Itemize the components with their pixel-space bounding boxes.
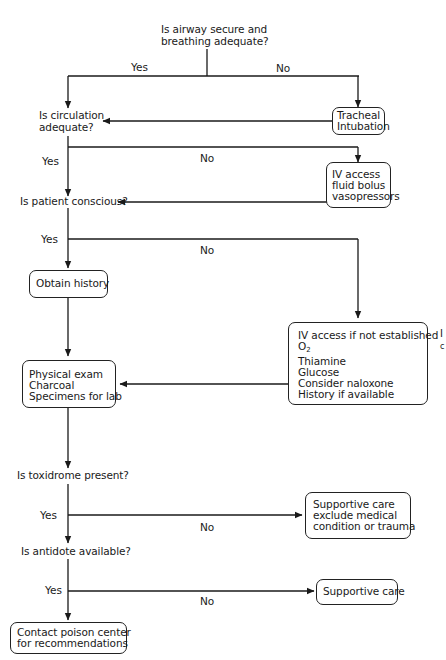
- flowchart-canvas: Is airway secure and breathing adequate?…: [0, 0, 446, 660]
- edge-label-antidote-no: No: [200, 596, 214, 607]
- decision-airway-breathing: Is airway secure and breathing adequate?: [161, 24, 269, 47]
- action-intubation-line2: Intubation: [337, 121, 384, 132]
- care-oxygen-symbol: O: [298, 340, 306, 352]
- care-line-oxygen: O2: [298, 341, 427, 356]
- action-iv-fluid-vasopressors: IV access fluid bolus vasopressors: [326, 162, 391, 208]
- edge-label-antidote-yes: Yes: [45, 585, 62, 596]
- edge-label-airway-yes: Yes: [131, 62, 148, 73]
- action-unconscious-care: IV access if not established O2 Thiamine…: [288, 322, 428, 405]
- supportive-line3: condition or trauma: [313, 521, 410, 532]
- care-oxygen-subscript: 2: [306, 346, 310, 354]
- action-tracheal-intubation: Tracheal Intubation: [332, 107, 385, 135]
- care-line-iv-access: IV access if not established: [298, 330, 427, 341]
- action-contact-poison-center: Contact poison center for recommendation…: [10, 622, 127, 654]
- edge-label-circulation-no: No: [200, 153, 214, 164]
- edge-label-circulation-yes: Yes: [42, 156, 59, 167]
- clipped-margin-text-1: I: [440, 328, 443, 339]
- decision-toxidrome-present: Is toxidrome present?: [17, 470, 129, 482]
- exam-line-specimens: Specimens for lab: [29, 391, 115, 402]
- edge-label-airway-no: No: [276, 63, 290, 74]
- poison-center-line2: for recommendations: [17, 638, 126, 649]
- decision-circulation: Is circulation adequate?: [39, 110, 104, 133]
- edge-label-conscious-yes: Yes: [41, 234, 58, 245]
- decision-circulation-line1: Is circulation: [39, 110, 104, 122]
- action-supportive-care-exclude: Supportive care exclude medical conditio…: [305, 492, 411, 539]
- decision-airway-line1: Is airway secure and: [161, 24, 269, 36]
- decision-airway-line2: breathing adequate?: [161, 36, 269, 48]
- edge-label-conscious-no: No: [200, 245, 214, 256]
- edge-label-toxidrome-no: No: [200, 522, 214, 533]
- decision-patient-conscious: Is patient conscious?: [20, 196, 128, 208]
- action-iv-line3: vasopressors: [332, 191, 390, 202]
- action-obtain-history: Obtain history: [29, 270, 108, 298]
- decision-circulation-line2: adequate?: [39, 122, 104, 134]
- decision-antidote-available: Is antidote available?: [21, 546, 131, 558]
- clipped-margin-text-2: c: [440, 341, 444, 352]
- action-supportive-care: Supportive care: [316, 579, 398, 605]
- action-physical-exam: Physical exam Charcoal Specimens for lab: [22, 360, 116, 408]
- edge-label-toxidrome-yes: Yes: [40, 510, 57, 521]
- care-line-history: History if available: [298, 389, 427, 400]
